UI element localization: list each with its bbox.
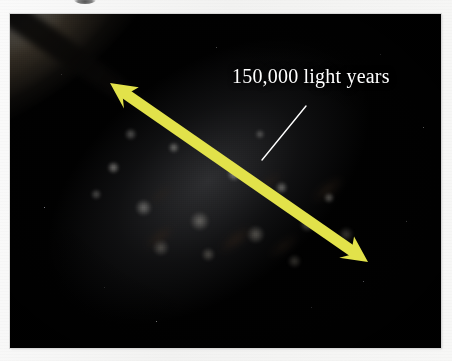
scale-arrow-shaft — [123, 92, 355, 253]
scale-arrow — [110, 83, 368, 262]
cropped-page-artifact — [74, 0, 96, 4]
label-leader-line — [262, 106, 306, 160]
figure-page: 150,000 light years — [0, 0, 452, 361]
scale-label: 150,000 light years — [232, 66, 390, 86]
